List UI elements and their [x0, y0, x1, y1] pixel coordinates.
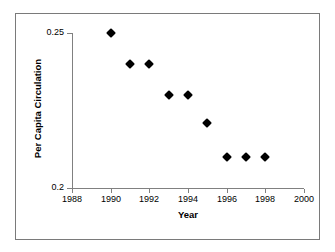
y-axis-title: Per Capita Circulation — [32, 31, 43, 187]
x-axis-tick-label: 1996 — [207, 194, 247, 205]
x-axis-tick-label: 1988 — [52, 194, 92, 205]
y-axis-line — [72, 33, 73, 189]
x-axis-tick — [188, 189, 189, 193]
y-axis-tick — [67, 188, 72, 189]
scatter-plot: 1988199019921994199619982000 0.25 0.2 Ye… — [0, 0, 335, 252]
data-point-marker — [183, 90, 193, 100]
x-axis-tick-label: 1998 — [245, 194, 285, 205]
x-axis-title: Year — [72, 209, 304, 220]
data-point-marker — [144, 59, 154, 69]
y-axis-tick — [67, 33, 72, 34]
x-axis-tick — [227, 189, 228, 193]
data-point-marker — [125, 59, 135, 69]
x-axis-tick-label: 1994 — [168, 194, 208, 205]
x-axis-tick — [265, 189, 266, 193]
data-point-marker — [106, 28, 116, 38]
x-axis-tick — [111, 189, 112, 193]
x-axis-tick — [72, 189, 73, 193]
data-point-marker — [241, 152, 251, 162]
x-axis-tick — [304, 189, 305, 193]
data-point-marker — [202, 118, 212, 128]
x-axis-tick — [149, 189, 150, 193]
x-axis-tick-label: 1992 — [129, 194, 169, 205]
data-point-marker — [164, 90, 174, 100]
x-axis-tick-label: 1990 — [91, 194, 131, 205]
data-point-marker — [222, 152, 232, 162]
data-point-marker — [260, 152, 270, 162]
x-axis-tick-label: 2000 — [284, 194, 324, 205]
